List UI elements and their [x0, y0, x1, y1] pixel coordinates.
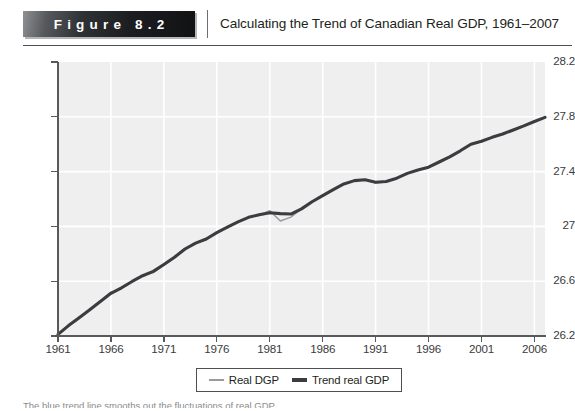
figure-number-badge: Figure 8.2 [23, 11, 195, 37]
x-axis-tick-mark [163, 336, 164, 342]
x-axis-tick-label: 1996 [404, 342, 454, 355]
gridlines [58, 62, 545, 336]
y-axis-tick-mark [51, 281, 58, 282]
y-axis-tick-label: 28.2 [533, 54, 575, 67]
x-axis-tick-mark [57, 336, 58, 342]
y-axis-tick-mark [51, 116, 58, 117]
y-axis-tick-mark [51, 226, 58, 227]
x-axis-tick-mark [110, 336, 111, 342]
legend-swatch-icon [292, 378, 307, 382]
y-axis-tick-label: 26.2 [533, 328, 575, 341]
x-axis-tick-mark [428, 336, 429, 342]
legend-label: Real DGP [229, 374, 279, 386]
y-axis-tick-mark [51, 61, 58, 62]
legend-label: Trend real GDP [312, 374, 389, 386]
x-axis-tick-mark [534, 336, 535, 342]
x-axis-tick-label: 2006 [509, 342, 559, 355]
chart-container: 28.227.827.42726.626.2 19611966197119761… [0, 47, 575, 411]
x-axis-tick-label: 1991 [351, 342, 401, 355]
x-axis-tick-mark [216, 336, 217, 342]
chart-plot-svg [0, 47, 575, 411]
figure-caption: The blue trend line smooths out the fluc… [23, 399, 443, 408]
x-axis-tick-label: 2001 [456, 342, 506, 355]
y-axis-tick-mark [51, 171, 58, 172]
x-axis-tick-label: 1981 [245, 342, 295, 355]
x-axis-tick-mark [269, 336, 270, 342]
x-axis-tick-label: 1976 [192, 342, 242, 355]
legend-item: Real DGP [209, 374, 279, 386]
legend-item: Trend real GDP [292, 374, 389, 386]
y-axis-tick-label: 27 [533, 218, 575, 231]
figure-number-label: Figure 8.2 [23, 11, 195, 37]
x-axis-tick-label: 1961 [33, 342, 83, 355]
y-axis-tick-label: 27.4 [533, 164, 575, 177]
x-axis-line [57, 335, 546, 337]
x-axis-tick-mark [375, 336, 376, 342]
x-axis-tick-mark [481, 336, 482, 342]
y-axis-tick-label: 27.8 [533, 109, 575, 122]
x-axis-tick-label: 1966 [86, 342, 136, 355]
x-axis-tick-label: 1986 [298, 342, 348, 355]
figure-header: Figure 8.2 Calculating the Trend of Cana… [0, 0, 575, 47]
figure-title: Calculating the Trend of Canadian Real G… [220, 12, 570, 36]
y-axis-line [57, 62, 59, 337]
chart-legend: Real DGPTrend real GDP [196, 368, 402, 392]
legend-swatch-icon [209, 379, 224, 381]
x-axis-tick-label: 1971 [139, 342, 189, 355]
x-axis-tick-mark [322, 336, 323, 342]
header-divider [207, 10, 208, 38]
y-axis-tick-label: 26.6 [533, 273, 575, 286]
